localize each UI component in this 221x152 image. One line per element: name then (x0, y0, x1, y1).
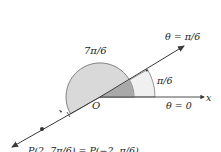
angle-small-label: π/6 (156, 75, 173, 86)
origin-label: O (92, 100, 100, 111)
ray-top-label: θ = π/6 (165, 31, 200, 42)
ray-opposite (12, 97, 100, 147)
polar-diagram: 7π/6 θ = π/6 π/6 x θ = 0 O P(2, 7π/6) = … (0, 0, 221, 152)
point-label: P(2, 7π/6) = P(−2, π/6) (27, 145, 139, 152)
point-p (40, 127, 44, 131)
ray-axis-label: θ = 0 (166, 100, 192, 111)
axis-label: x (206, 92, 212, 103)
angle-large-label: 7π/6 (84, 45, 107, 56)
large-arc-arrow-icon (59, 110, 62, 113)
diagram-canvas: 7π/6 θ = π/6 π/6 x θ = 0 O P(2, 7π/6) = … (0, 0, 221, 152)
